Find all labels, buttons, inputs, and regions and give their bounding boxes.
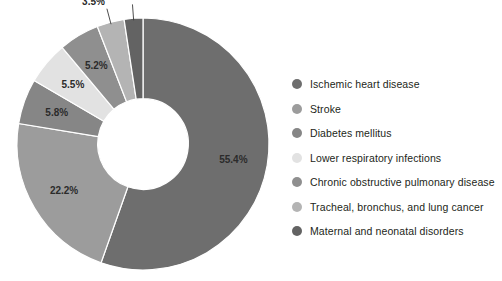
donut-chart-plot: 55.4%22.2%5.8%5.5%5.2%3.5%2.4%	[0, 0, 290, 281]
slice-percent-label: 5.8%	[45, 107, 68, 118]
legend-item[interactable]: Diabetes mellitus	[292, 121, 500, 146]
legend-item[interactable]: Tracheal, bronchus, and lung cancer	[292, 195, 500, 220]
legend-item-label: Maternal and neonatal disorders	[310, 225, 464, 237]
legend-item-label: Tracheal, bronchus, and lung cancer	[310, 201, 484, 213]
legend-item[interactable]: Ischemic heart disease	[292, 72, 500, 97]
legend-item[interactable]: Stroke	[292, 97, 500, 122]
slice-percent-label: 5.5%	[62, 79, 85, 90]
legend-swatch-icon	[292, 226, 302, 236]
legend-item-label: Lower respiratory infections	[310, 152, 441, 164]
legend-swatch-icon	[292, 128, 302, 138]
legend-item[interactable]: Lower respiratory infections	[292, 146, 500, 171]
legend-item-label: Diabetes mellitus	[310, 127, 392, 139]
legend-item-label: Chronic obstructive pulmonary disease	[310, 176, 495, 188]
chart-legend: Ischemic heart diseaseStrokeDiabetes mel…	[292, 72, 500, 244]
legend-swatch-icon	[292, 202, 302, 212]
slice-percent-label: 55.4%	[219, 154, 247, 165]
legend-swatch-icon	[292, 153, 302, 163]
leader-line	[107, 9, 111, 24]
legend-item[interactable]: Chronic obstructive pulmonary disease	[292, 170, 500, 195]
legend-item[interactable]: Maternal and neonatal disorders	[292, 219, 500, 244]
legend-item-label: Stroke	[310, 103, 341, 115]
slice-percent-label: 2.4%	[108, 0, 131, 2]
slice-percent-label: 3.5%	[82, 0, 105, 7]
donut-chart-figure: 55.4%22.2%5.8%5.5%5.2%3.5%2.4% Ischemic …	[0, 0, 502, 281]
legend-swatch-icon	[292, 79, 302, 89]
legend-swatch-icon	[292, 104, 302, 114]
legend-swatch-icon	[292, 177, 302, 187]
slice-percent-label: 22.2%	[50, 185, 78, 196]
legend-item-label: Ischemic heart disease	[310, 78, 420, 90]
slice-percent-label: 5.2%	[85, 60, 108, 71]
donut-slice-group	[17, 18, 269, 270]
